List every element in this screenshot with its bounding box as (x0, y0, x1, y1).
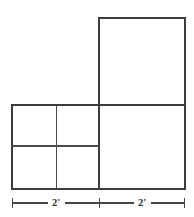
left-dimension-label: 2' (52, 197, 60, 208)
lower-right-square-face (99, 105, 185, 189)
lower-left-block-face (12, 105, 99, 189)
right-dimension-label: 2' (138, 197, 146, 208)
geometry-figure-canvas: 2' 2' (0, 0, 194, 217)
figure-svg: 2' 2' (0, 0, 194, 217)
upper-right-square-face (99, 18, 185, 105)
